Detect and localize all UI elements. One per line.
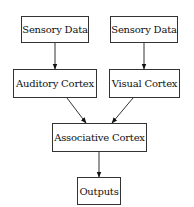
node-associative-cortex: Associative Cortex — [52, 123, 147, 152]
node-sensory-data-1: Sensory Data — [21, 16, 89, 43]
node-visual-cortex: Visual Cortex — [109, 69, 180, 98]
node-label: Outputs — [79, 186, 118, 197]
node-outputs: Outputs — [77, 177, 121, 205]
node-label: Sensory Data — [22, 24, 88, 35]
node-label: Sensory Data — [111, 24, 177, 35]
node-label: Visual Cortex — [112, 78, 178, 89]
edge-auditory-associative — [67, 98, 86, 123]
node-label: Associative Cortex — [54, 132, 145, 143]
node-sensory-data-2: Sensory Data — [110, 16, 178, 43]
node-auditory-cortex: Auditory Cortex — [13, 69, 97, 98]
edge-visual-associative — [112, 98, 133, 123]
node-label: Auditory Cortex — [16, 78, 94, 89]
